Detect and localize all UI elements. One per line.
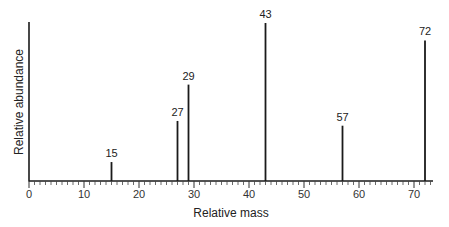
x-axis-title: Relative mass <box>193 206 268 220</box>
x-tick-label: 50 <box>298 188 310 200</box>
peak-label: 43 <box>259 8 271 20</box>
x-tick-label: 10 <box>78 188 90 200</box>
x-tick-label: 70 <box>408 188 420 200</box>
axes: 010203040506070 <box>26 22 433 200</box>
peak-label: 72 <box>419 25 431 37</box>
peaks: 152729435772 <box>105 8 431 181</box>
x-tick-label: 30 <box>188 188 200 200</box>
x-tick-label: 0 <box>26 188 32 200</box>
x-major-ticks: 010203040506070 <box>26 181 420 200</box>
x-tick-label: 40 <box>243 188 255 200</box>
peak-label: 27 <box>171 106 183 118</box>
mass-spectrum-chart: 010203040506070 152729435772 Relative ma… <box>0 0 449 227</box>
y-axis-title: Relative abundance <box>12 49 26 155</box>
x-tick-label: 20 <box>133 188 145 200</box>
peak-label: 57 <box>336 111 348 123</box>
peak-label: 15 <box>105 147 117 159</box>
x-tick-label: 60 <box>353 188 365 200</box>
peak-label: 29 <box>182 70 194 82</box>
